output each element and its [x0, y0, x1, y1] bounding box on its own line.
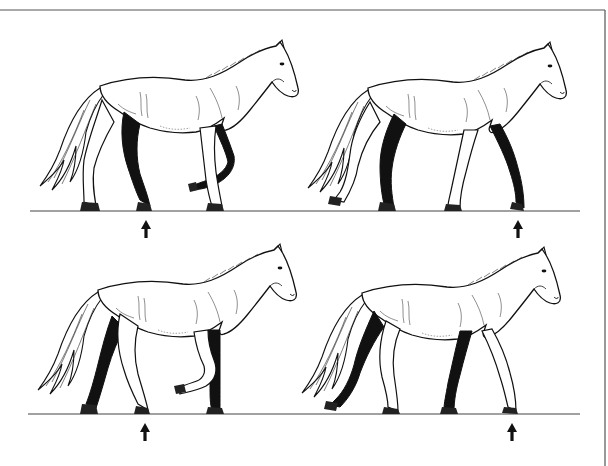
horse-top-right [308, 42, 566, 211]
horse-top-left [40, 40, 298, 211]
arrow-top-left-icon [141, 220, 151, 238]
illustration-canvas [0, 0, 608, 466]
horse-bottom-right [302, 247, 560, 414]
arrow-top-right-icon [513, 220, 523, 238]
arrow-bottom-left-icon [140, 423, 150, 441]
gait-illustration [0, 0, 608, 466]
arrow-bottom-right-icon [507, 423, 517, 441]
horse-bottom-left [38, 244, 296, 414]
